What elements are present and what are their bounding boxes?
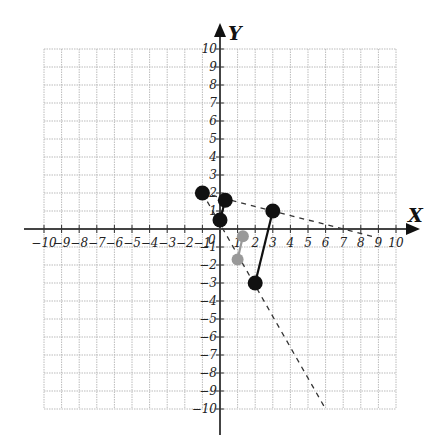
- x-tick-label: 8: [357, 236, 365, 250]
- x-tick-label: −9: [53, 236, 71, 250]
- x-tick-label: −5: [123, 236, 141, 250]
- y-tick-label: −10: [192, 402, 218, 416]
- x-tick-label: 7: [339, 236, 347, 250]
- y-tick-label: 8: [209, 78, 217, 92]
- x-tick-label: 6: [322, 236, 330, 250]
- y-axis-arrow-icon: [214, 23, 226, 37]
- x-tick-label: 10: [388, 236, 404, 250]
- y-tick-label: −3: [199, 276, 217, 290]
- y-tick-label: −4: [199, 294, 217, 308]
- x-tick-label: 5: [304, 236, 312, 250]
- y-tick-label: 7: [209, 96, 217, 110]
- x-tick-label: −3: [158, 236, 176, 250]
- y-tick-label: 4: [208, 150, 217, 164]
- data-point: [232, 254, 244, 266]
- x-tick-label: −2: [176, 236, 194, 250]
- x-axis-label: X: [407, 204, 424, 226]
- data-point: [195, 186, 210, 201]
- x-tick-label: 4: [286, 236, 295, 250]
- x-tick-label: 2: [250, 236, 259, 250]
- y-tick-label: −5: [199, 312, 217, 326]
- y-tick-label: 3: [209, 168, 217, 182]
- x-tick-label: −8: [70, 236, 88, 250]
- y-tick-label: 10: [202, 42, 218, 56]
- origin-label: 0: [208, 233, 216, 247]
- x-tick-label: 9: [375, 236, 383, 250]
- x-tick-label: −7: [88, 236, 106, 250]
- y-axis-label: Y: [228, 22, 244, 44]
- y-tick-label: 6: [209, 114, 217, 128]
- y-tick-label: −8: [199, 366, 217, 380]
- y-tick-label: −6: [199, 330, 217, 344]
- y-tick-label: 9: [209, 60, 217, 74]
- data-point: [218, 193, 233, 208]
- coordinate-plane: −10−9−8−7−6−5−4−3−2−112345678910−10−9−8−…: [0, 0, 435, 446]
- data-point: [248, 276, 263, 291]
- data-point: [237, 230, 249, 242]
- x-tick-label: −4: [141, 236, 159, 250]
- y-tick-label: −9: [199, 384, 217, 398]
- plot-series: [195, 186, 379, 410]
- x-tick-label: −6: [106, 236, 124, 250]
- y-tick-label: 5: [209, 132, 217, 146]
- x-tick-label: 3: [269, 236, 277, 250]
- y-tick-label: −7: [199, 348, 217, 362]
- data-point: [213, 213, 228, 228]
- data-point: [265, 204, 280, 219]
- y-tick-label: −2: [199, 258, 217, 272]
